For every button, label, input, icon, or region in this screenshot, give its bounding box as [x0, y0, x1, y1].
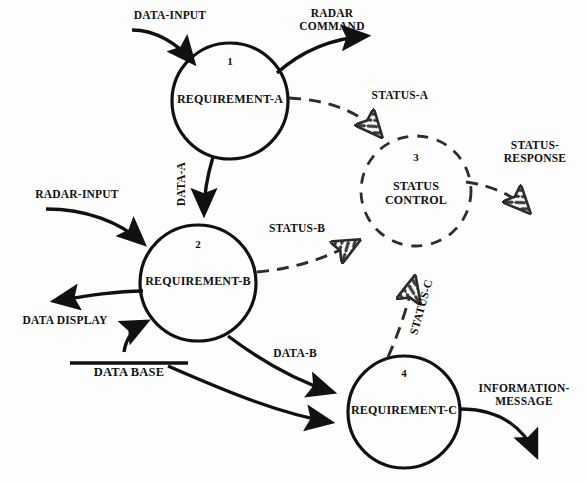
- process-2-name: REQUIREMENT-B: [130, 275, 266, 288]
- flow-label-status-response-line1: STATUS-: [487, 139, 583, 151]
- data-flow-diagram: 1 REQUIREMENT-A 2 REQUIREMENT-B 3 STATUS…: [0, 0, 586, 482]
- process-3-number: 3: [398, 152, 434, 164]
- flow-label-data-input: DATA-INPUT: [115, 9, 225, 21]
- flow-line-status-b: [257, 242, 356, 272]
- flow-label-data-b: DATA-B: [259, 347, 331, 359]
- process-4-number: 4: [386, 368, 422, 380]
- flow-label-status-b: STATUS-B: [252, 222, 342, 234]
- data-store-label: DATA BASE: [70, 366, 188, 379]
- flow-label-data-display: DATA DISPLAY: [6, 314, 124, 326]
- flow-line-radar-input: [46, 209, 143, 243]
- flow-label-radar-command-line1: RADAR: [283, 7, 381, 19]
- flow-line-radar-command: [277, 36, 366, 73]
- process-1-number: 1: [212, 56, 248, 68]
- flow-label-radar-command-line2: COMMAND: [283, 20, 381, 32]
- flow-label-data-a: DATA-A: [175, 149, 187, 219]
- process-3-name-line2: CONTROL: [368, 194, 464, 207]
- flow-label-radar-input: RADAR-INPUT: [20, 188, 134, 200]
- process-3-name-line1: STATUS: [368, 180, 464, 193]
- flow-line-database-to-process-2: [124, 322, 146, 352]
- process-1-name: REQUIREMENT-A: [162, 93, 298, 106]
- diagram-canvas: [0, 0, 586, 482]
- flow-line-data-b: [228, 336, 332, 392]
- flow-line-data-a: [204, 157, 213, 213]
- flow-line-data-input: [132, 30, 193, 62]
- process-4-name: REQUIREMENT-C: [336, 404, 472, 417]
- flow-label-information-message-line2: MESSAGE: [468, 395, 580, 407]
- flow-label-information-message-line1: INFORMATION-: [468, 382, 580, 394]
- process-2-number: 2: [180, 239, 216, 251]
- flow-line-data-display: [55, 291, 143, 301]
- flow-line-database-to-process-4: [168, 366, 330, 422]
- flow-label-status-a: STATUS-A: [355, 89, 445, 101]
- flow-line-status-response: [466, 182, 527, 210]
- flow-line-status-a: [289, 98, 379, 134]
- flow-label-status-response-line2: RESPONSE: [487, 152, 583, 164]
